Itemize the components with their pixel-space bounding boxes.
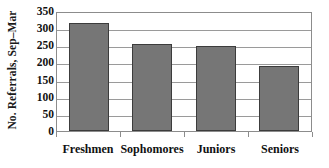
plot-area [56, 12, 312, 132]
bar-slot [121, 13, 185, 131]
bar-seniors[interactable] [259, 66, 299, 131]
y-axis-tick-label: 300 [22, 23, 54, 35]
bar-slot [248, 13, 312, 131]
x-axis-label-sophomores: Sophomores [120, 139, 184, 161]
y-axis-tick-labels: 050100150200250300350 [22, 12, 54, 132]
bar-freshmen[interactable] [69, 23, 109, 131]
x-axis-tick [120, 132, 121, 137]
x-axis-category-labels: FreshmenSophomoresJuniorsSeniors [56, 139, 312, 161]
y-axis-tick-label: 350 [22, 6, 54, 18]
x-axis-tick [184, 132, 185, 137]
x-axis-ticks [56, 132, 312, 137]
y-axis-tick-label: 250 [22, 41, 54, 53]
bar-sophomores[interactable] [132, 44, 172, 131]
bar-slot [57, 13, 121, 131]
x-axis-tick [312, 132, 313, 137]
y-axis-title: No. Referrals, Sep–Mar [0, 0, 24, 140]
x-axis-label-seniors: Seniors [248, 139, 312, 161]
bar-chart-figure: No. Referrals, Sep–Mar 05010015020025030… [0, 0, 329, 168]
y-axis-tick-label: 100 [22, 92, 54, 104]
y-axis-tick-label: 50 [22, 109, 54, 121]
bar-series [57, 13, 311, 131]
x-axis-tick [56, 132, 57, 137]
y-axis-title-text: No. Referrals, Sep–Mar [6, 10, 18, 129]
bar-slot [184, 13, 248, 131]
x-axis-label-freshmen: Freshmen [56, 139, 120, 161]
bar-juniors[interactable] [196, 46, 236, 131]
x-axis-tick [248, 132, 249, 137]
y-axis-tick-label: 150 [22, 75, 54, 87]
y-axis-tick-label: 0 [22, 126, 54, 138]
x-axis-label-juniors: Juniors [184, 139, 248, 161]
y-axis-tick-label: 200 [22, 58, 54, 70]
